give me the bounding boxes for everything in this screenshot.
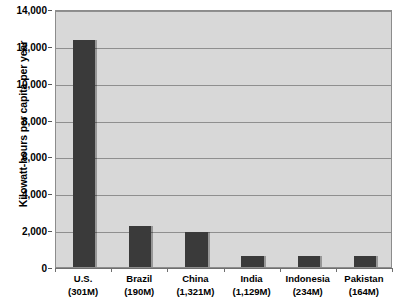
y-tick-label: 2,000 <box>1 226 47 237</box>
x-label-population: (301M) <box>55 285 111 298</box>
x-label-country: Indonesia <box>286 273 330 284</box>
x-tick-mark <box>224 268 225 272</box>
x-label-population: (164M) <box>336 285 392 298</box>
x-label-country: India <box>240 273 262 284</box>
x-tick-mark <box>336 268 337 272</box>
bar-china[interactable] <box>185 232 207 267</box>
x-tick-mark <box>280 268 281 272</box>
x-tick-mark <box>55 268 56 272</box>
x-axis-label: India(1,129M) <box>224 272 280 298</box>
x-axis-label: China(1,321M) <box>167 272 223 298</box>
y-tick-label: 14,000 <box>1 5 47 16</box>
x-axis-label: Brazil(190M) <box>111 272 167 298</box>
bars-layer <box>56 11 391 267</box>
x-label-population: (190M) <box>111 285 167 298</box>
bar-slot <box>168 11 224 267</box>
y-tick-label: 12,000 <box>1 41 47 52</box>
x-axis-label: Pakistan(164M) <box>336 272 392 298</box>
y-tick-label: 10,000 <box>1 78 47 89</box>
y-tick-label: 8,000 <box>1 115 47 126</box>
y-tick-mark <box>48 10 52 11</box>
y-tick-mark <box>48 121 52 122</box>
bar-india[interactable] <box>241 256 263 267</box>
x-tick-mark <box>111 268 112 272</box>
x-label-country: Brazil <box>126 273 152 284</box>
y-tick-label: 0 <box>1 263 47 274</box>
y-tick-mark <box>48 157 52 158</box>
x-axis-labels: U.S.(301M)Brazil(190M)China(1,321M)India… <box>55 272 392 305</box>
x-label-population: (1,129M) <box>224 285 280 298</box>
y-tick-label: 6,000 <box>1 152 47 163</box>
x-tick-mark <box>392 268 393 272</box>
bar-slot <box>337 11 392 267</box>
bar-indonesia[interactable] <box>298 256 320 267</box>
bar-brazil[interactable] <box>129 226 151 267</box>
x-tick-mark <box>167 268 168 272</box>
x-label-country: U.S. <box>74 273 92 284</box>
bar-slot <box>56 11 112 267</box>
x-label-population: (234M) <box>280 285 336 298</box>
y-tick-label: 4,000 <box>1 189 47 200</box>
plot-area <box>55 10 392 268</box>
x-axis-label: Indonesia(234M) <box>280 272 336 298</box>
x-label-country: China <box>182 273 208 284</box>
bar-chart: Kilowatt-hours per capita per year 14,00… <box>0 0 395 305</box>
x-label-country: Pakistan <box>344 273 383 284</box>
y-tick-mark <box>48 194 52 195</box>
y-tick-mark <box>48 47 52 48</box>
x-axis-label: U.S.(301M) <box>55 272 111 298</box>
y-axis-ticks: 14,00012,00010,0008,0006,0004,0002,0000 <box>0 0 52 305</box>
bar-pakistan[interactable] <box>354 256 376 267</box>
bar-slot <box>281 11 337 267</box>
y-tick-mark <box>48 268 52 269</box>
bar-slot <box>112 11 168 267</box>
x-label-population: (1,321M) <box>167 285 223 298</box>
y-tick-mark <box>48 84 52 85</box>
bar-slot <box>225 11 281 267</box>
bar-u-s[interactable] <box>73 40 95 267</box>
y-tick-mark <box>48 231 52 232</box>
